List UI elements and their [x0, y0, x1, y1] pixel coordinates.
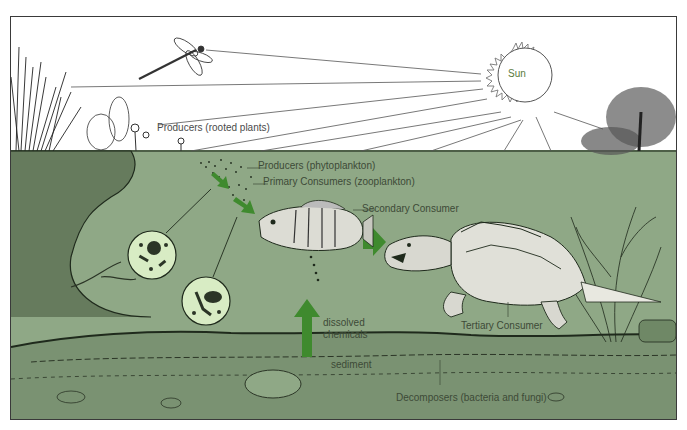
secondary-consumer-label: Secondary Consumer [362, 204, 459, 214]
log-icon [639, 320, 676, 342]
fish-icon [259, 200, 373, 281]
producers-phytoplankton-label: Producers (phytoplankton) [258, 161, 375, 171]
food-chain-diagram: Sun Producers (rooted plants) Producers … [10, 16, 677, 420]
primary-consumers-label: Primary Consumers (zooplankton) [263, 177, 415, 187]
decomposers-label: Decomposers (bacteria and fungi) [396, 393, 547, 403]
sediment-label: sediment [331, 360, 372, 370]
dissolved-label: dissolved [323, 318, 365, 328]
tree-icon [581, 87, 676, 155]
tertiary-consumer-label: Tertiary Consumer [461, 321, 543, 331]
phytoplankton-magnified-icon [182, 217, 237, 325]
dragonfly-icon [139, 35, 214, 79]
turtle-icon [385, 222, 661, 329]
grass-icon [11, 47, 81, 151]
sediment-layer [11, 332, 676, 419]
bank-icon [11, 151, 151, 317]
sun-label: Sun [508, 69, 526, 79]
zooplankton-icon [128, 189, 211, 279]
arrow-phyto-to-zoo [211, 172, 229, 189]
chemicals-label: chemicals [323, 330, 367, 340]
producers-rooted-label: Producers (rooted plants) [157, 123, 270, 133]
